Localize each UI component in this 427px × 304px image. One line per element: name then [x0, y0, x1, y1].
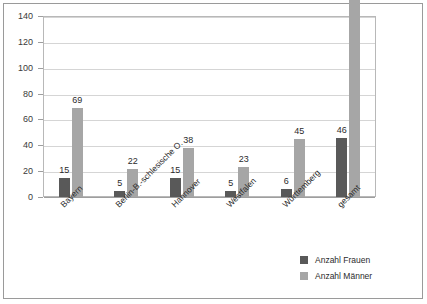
legend-label: Anzahl Männer — [315, 272, 372, 281]
y-axis-tick-label: 0 — [0, 193, 33, 202]
bar-value-label: 69 — [65, 96, 90, 105]
y-tick-mark — [38, 145, 43, 146]
gridline — [44, 146, 375, 147]
y-axis-tick-label: 100 — [0, 64, 33, 73]
y-tick-mark — [38, 42, 43, 43]
y-axis-tick-label: 120 — [0, 38, 33, 47]
legend-color-swatch — [300, 272, 308, 280]
gridline — [44, 172, 375, 173]
gridline — [44, 95, 375, 96]
gridline — [44, 43, 375, 44]
y-axis-tick-label: 140 — [0, 12, 33, 21]
legend-color-swatch — [300, 256, 308, 264]
y-tick-mark — [38, 68, 43, 69]
gridline — [44, 69, 375, 70]
bar-value-label: 22 — [120, 157, 145, 166]
legend-item: Anzahl Männer — [300, 272, 372, 281]
y-tick-mark — [38, 119, 43, 120]
y-axis-tick-label: 80 — [0, 90, 33, 99]
chart-figure: 020406080100120140 156952215385236454619… — [0, 0, 427, 304]
y-tick-mark — [38, 197, 43, 198]
y-tick-mark — [38, 94, 43, 95]
plot-area — [43, 16, 376, 197]
bar-value-label: 23 — [231, 155, 256, 164]
chart-legend: Anzahl FrauenAnzahl Männer — [300, 256, 372, 287]
gridline — [44, 17, 375, 18]
y-tick-mark — [38, 171, 43, 172]
y-tick-mark — [38, 16, 43, 17]
legend-item: Anzahl Frauen — [300, 256, 372, 265]
gridline — [44, 120, 375, 121]
gridline — [44, 197, 375, 198]
legend-label: Anzahl Frauen — [315, 256, 370, 265]
bar — [349, 0, 360, 197]
y-axis-tick-label: 60 — [0, 115, 33, 124]
bar — [336, 138, 347, 197]
bar-value-label: 45 — [287, 127, 312, 136]
y-axis-tick-label: 40 — [0, 141, 33, 150]
y-axis-tick-label: 20 — [0, 167, 33, 176]
